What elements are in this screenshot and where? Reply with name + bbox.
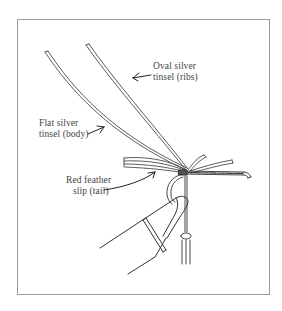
red-feather-tail (124, 158, 186, 174)
label-oval-silver-tinsel: Oval silver tinsel (ribs) (153, 61, 198, 83)
label-line: slip (tail) (66, 186, 111, 197)
label-line: Flat silver (39, 118, 89, 129)
hook-post (185, 176, 187, 232)
label-red-feather-slip: Red feather slip (tail) (66, 175, 111, 197)
label-line: tinsel (body) (39, 129, 89, 140)
vise-stem (181, 233, 191, 264)
label-arrows (88, 73, 155, 190)
vise-jaw (100, 196, 188, 274)
label-flat-silver-tinsel: Flat silver tinsel (body) (39, 118, 89, 140)
label-line: Oval silver (153, 61, 198, 72)
label-line: Red feather (66, 175, 111, 186)
fly-tying-illustration (0, 0, 282, 311)
arrow-icon-oval-tinsel (133, 73, 151, 81)
label-line: tinsel (ribs) (153, 72, 198, 83)
hook-bend (167, 174, 183, 204)
wing-slips (188, 155, 233, 173)
arrow-icon-red-feather (104, 172, 155, 190)
hook-shank (179, 170, 251, 178)
arrow-icon-flat-tinsel (88, 126, 104, 134)
